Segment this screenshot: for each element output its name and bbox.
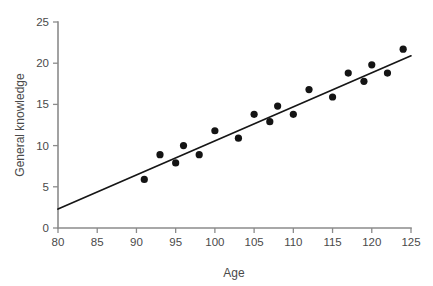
data-point	[329, 93, 336, 100]
x-tick-label-110: 110	[284, 236, 302, 248]
data-point	[290, 111, 297, 118]
data-point	[251, 111, 258, 118]
x-axis-title: Age	[223, 266, 245, 280]
x-tick-label-105: 105	[245, 236, 264, 248]
x-tick-label-120: 120	[362, 236, 381, 248]
data-point	[384, 69, 391, 76]
data-point	[235, 135, 242, 142]
y-tick-label-15: 15	[36, 98, 49, 110]
data-point	[211, 127, 218, 134]
x-tick-label-90: 90	[130, 236, 143, 248]
chart-axes	[58, 22, 411, 228]
x-tick-label-95: 95	[169, 236, 182, 248]
y-axis-tick-labels: 0510152025	[36, 16, 49, 234]
data-point	[196, 151, 203, 158]
data-point	[180, 142, 187, 149]
data-points-group	[141, 46, 407, 183]
chart-canvas: 80859095100105110115120125 0510152025 Ag…	[0, 0, 433, 286]
y-tick-label-0: 0	[43, 222, 49, 234]
data-point	[172, 159, 179, 166]
y-tick-label-5: 5	[43, 181, 49, 193]
x-tick-label-80: 80	[52, 236, 65, 248]
scatter-chart-figure: 80859095100105110115120125 0510152025 Ag…	[0, 0, 433, 286]
data-point	[141, 176, 148, 183]
y-tick-label-25: 25	[36, 16, 49, 28]
data-point	[360, 78, 367, 85]
data-point	[368, 61, 375, 68]
x-tick-label-100: 100	[205, 236, 224, 248]
data-point	[305, 86, 312, 93]
regression-line	[58, 56, 411, 209]
x-tick-label-85: 85	[91, 236, 104, 248]
x-axis-tick-labels: 80859095100105110115120125	[52, 236, 421, 248]
x-tick-label-125: 125	[401, 236, 420, 248]
y-axis-title: General knowledge	[13, 73, 27, 177]
data-point	[266, 118, 273, 125]
y-tick-label-20: 20	[36, 57, 49, 69]
data-point	[274, 102, 281, 109]
data-point	[345, 69, 352, 76]
data-point	[156, 151, 163, 158]
y-tick-label-10: 10	[36, 140, 49, 152]
data-point	[400, 46, 407, 53]
x-tick-label-115: 115	[323, 236, 341, 248]
